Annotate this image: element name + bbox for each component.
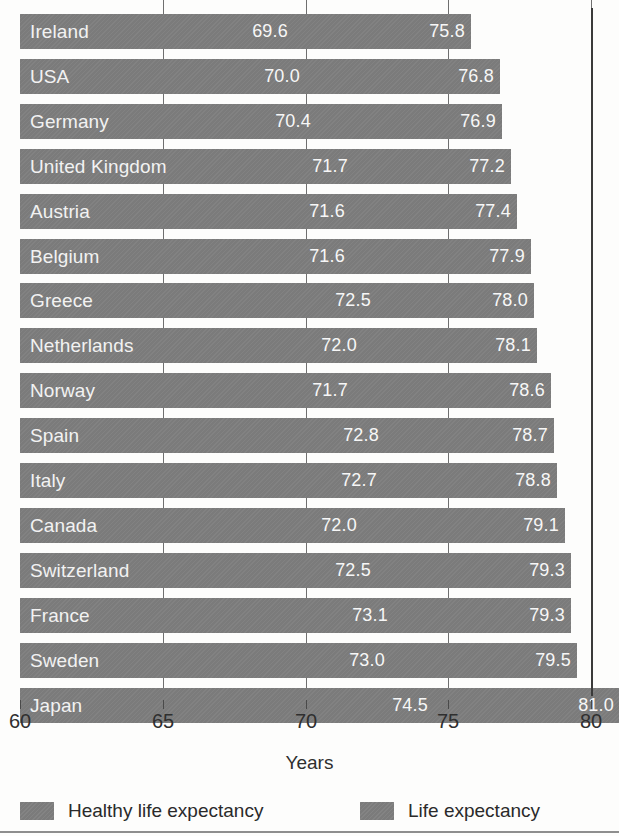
- bar-value-life: 78.1: [495, 328, 531, 363]
- bar-value-healthy: 72.0: [321, 508, 357, 543]
- bar-value-healthy: 73.1: [352, 598, 388, 633]
- bar-row: Spain72.878.7: [0, 418, 619, 453]
- bar-value-healthy: 71.7: [312, 373, 348, 408]
- bar-category-label: Germany: [30, 104, 109, 139]
- legend-label-healthy: Healthy life expectancy: [68, 800, 263, 822]
- bar-value-life: 76.9: [460, 104, 496, 139]
- bar-value-healthy: 72.8: [343, 418, 379, 453]
- bar-value-healthy: 69.6: [252, 14, 288, 49]
- bar-value-life: 76.8: [458, 59, 494, 94]
- bar-category-label: Greece: [30, 283, 93, 318]
- bar-category-label: United Kingdom: [30, 149, 167, 184]
- bar-value-life: 79.3: [529, 553, 565, 588]
- bar-row: USA70.076.8: [0, 59, 619, 94]
- x-tick-mark-65: [163, 700, 164, 709]
- bar-life-expectancy[interactable]: [20, 643, 577, 678]
- bar-category-label: Austria: [30, 194, 90, 229]
- bar-life-expectancy[interactable]: [20, 598, 571, 633]
- bar-life-expectancy[interactable]: [20, 283, 534, 318]
- x-tick-label-80: 80: [580, 710, 602, 733]
- legend-item-life-expectancy[interactable]: Life expectancy: [360, 800, 540, 822]
- x-tick-label-60: 60: [9, 710, 31, 733]
- bar-category-label: Spain: [30, 418, 79, 453]
- x-tick-mark-80: [591, 700, 592, 709]
- bar-row: Italy72.778.8: [0, 463, 619, 498]
- plot-area: Ireland69.675.8USA70.076.8Germany70.476.…: [0, 0, 619, 700]
- x-tick-label-75: 75: [437, 710, 459, 733]
- bar-category-label: Switzerland: [30, 553, 129, 588]
- x-tick-label-65: 65: [152, 710, 174, 733]
- chart-figure: Ireland69.675.8USA70.076.8Germany70.476.…: [0, 0, 619, 836]
- bar-life-expectancy[interactable]: [20, 194, 517, 229]
- legend-item-healthy-life-expectancy[interactable]: Healthy life expectancy: [20, 800, 263, 822]
- bar-row: France73.179.3: [0, 598, 619, 633]
- bar-category-label: Ireland: [30, 14, 89, 49]
- bar-row: Germany70.476.9: [0, 104, 619, 139]
- x-tick-mark-60: [20, 700, 21, 709]
- bar-category-label: Belgium: [30, 239, 99, 274]
- bar-value-healthy: 73.0: [349, 643, 385, 678]
- bar-row: Norway71.778.6: [0, 373, 619, 408]
- bar-value-healthy: 70.0: [264, 59, 300, 94]
- bar-life-expectancy[interactable]: [20, 463, 557, 498]
- bar-value-life: 79.1: [523, 508, 559, 543]
- bar-life-expectancy[interactable]: [20, 373, 551, 408]
- bar-value-healthy: 72.5: [335, 553, 371, 588]
- legend-swatch-icon-healthy: [20, 802, 54, 820]
- bar-value-healthy: 71.6: [309, 194, 345, 229]
- bottom-rule: [0, 831, 619, 833]
- bar-category-label: Norway: [30, 373, 95, 408]
- bar-life-expectancy[interactable]: [20, 59, 500, 94]
- bar-category-label: Sweden: [30, 643, 99, 678]
- bar-value-life: 79.5: [535, 643, 571, 678]
- bar-value-healthy: 72.7: [341, 463, 377, 498]
- bar-value-healthy: 72.0: [321, 328, 357, 363]
- x-axis-label: Years: [0, 752, 619, 774]
- chart-legend: Healthy life expectancy Life expectancy: [0, 796, 619, 826]
- bar-row: Netherlands72.078.1: [0, 328, 619, 363]
- bar-category-label: France: [30, 598, 90, 633]
- x-tick-label-70: 70: [295, 710, 317, 733]
- bar-value-life: 79.3: [529, 598, 565, 633]
- bar-value-life: 78.0: [492, 283, 528, 318]
- legend-label-life: Life expectancy: [408, 800, 540, 822]
- bar-category-label: Italy: [30, 463, 65, 498]
- bar-row: Austria71.677.4: [0, 194, 619, 229]
- bar-row: Canada72.079.1: [0, 508, 619, 543]
- x-tick-mark-70: [306, 700, 307, 709]
- bar-value-healthy: 71.7: [312, 149, 348, 184]
- bar-value-life: 75.8: [429, 14, 465, 49]
- bar-life-expectancy[interactable]: [20, 418, 554, 453]
- bar-row: Switzerland72.579.3: [0, 553, 619, 588]
- x-tick-mark-75: [448, 700, 449, 709]
- legend-swatch-icon-life: [360, 802, 394, 820]
- x-axis: 6065707580: [0, 700, 619, 760]
- bar-value-life: 78.8: [515, 463, 551, 498]
- bar-category-label: Canada: [30, 508, 97, 543]
- bar-value-healthy: 71.6: [309, 239, 345, 274]
- axis-spine-right: [591, 8, 593, 696]
- bar-value-healthy: 72.5: [335, 283, 371, 318]
- bar-category-label: Netherlands: [30, 328, 134, 363]
- bar-row: Sweden73.079.5: [0, 643, 619, 678]
- bar-value-life: 78.6: [509, 373, 545, 408]
- bar-row: United Kingdom71.777.2: [0, 149, 619, 184]
- bar-category-label: USA: [30, 59, 69, 94]
- bar-value-life: 77.2: [469, 149, 505, 184]
- bar-life-expectancy[interactable]: [20, 508, 565, 543]
- bar-value-healthy: 70.4: [275, 104, 311, 139]
- bar-row: Greece72.578.0: [0, 283, 619, 318]
- bar-value-life: 77.4: [475, 194, 511, 229]
- bar-value-life: 78.7: [512, 418, 548, 453]
- bar-value-life: 77.9: [489, 239, 525, 274]
- bar-row: Belgium71.677.9: [0, 239, 619, 274]
- bar-row: Ireland69.675.8: [0, 14, 619, 49]
